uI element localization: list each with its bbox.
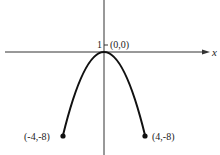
parabola-graph: x 1 (0,0) (-4,-8) (4,-8) xyxy=(0,0,220,155)
left-endpoint-label: (-4,-8) xyxy=(24,131,50,143)
right-endpoint-dot xyxy=(142,133,147,138)
x-axis-arrow-icon xyxy=(202,50,210,55)
left-endpoint-dot xyxy=(60,133,65,138)
vertex-label: (0,0) xyxy=(110,39,129,51)
y-tick-label: 1 xyxy=(97,39,102,50)
right-endpoint-label: (4,-8) xyxy=(152,131,175,143)
x-axis-label: x xyxy=(211,46,217,58)
